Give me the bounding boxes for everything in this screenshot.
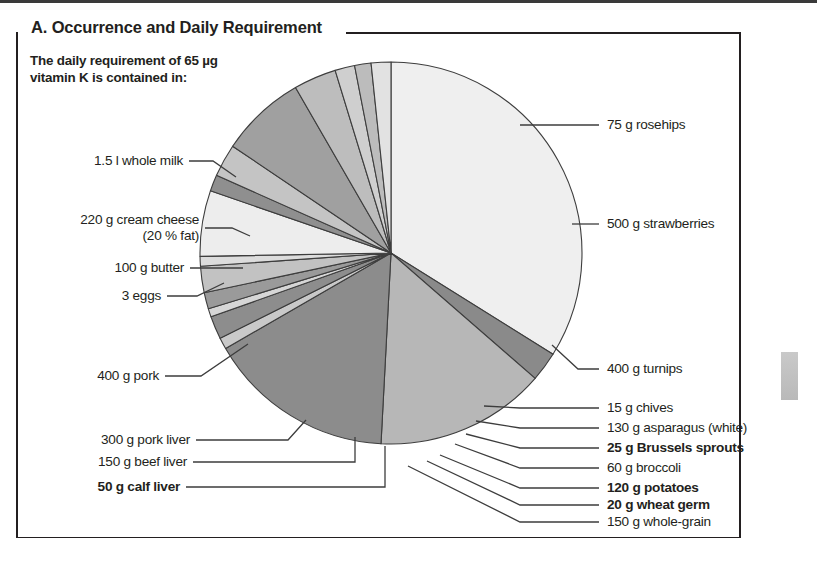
leader-asparagus (476, 421, 599, 428)
leader-pork-liver (196, 420, 306, 440)
label-pork-liver: 300 g pork liver (0, 432, 190, 448)
label-cream-cheese: 220 g cream cheese (20 % fat) (0, 212, 199, 244)
page-edge-thumb-marker (781, 352, 798, 400)
leader-brussels (466, 434, 599, 448)
label-rosehips: 75 g rosehips (607, 117, 685, 133)
label-asparagus: 130 g asparagus (white) (607, 420, 747, 436)
label-cream-cheese-line-1: 220 g cream cheese (80, 212, 199, 227)
label-pork: 400 g pork (0, 368, 159, 384)
label-calf-liver: 50 g calf liver (0, 479, 180, 495)
label-beef-liver: 150 g beef liver (0, 454, 187, 470)
label-butter: 100 g butter (0, 260, 184, 276)
label-potatoes: 120 g potatoes (607, 480, 699, 496)
leader-beef-liver (193, 437, 355, 462)
label-brussels-sprouts: 25 g Brussels sprouts (607, 440, 744, 456)
label-eggs: 3 eggs (0, 288, 161, 304)
label-wheat-germ: 20 g wheat germ (607, 497, 710, 513)
label-chives: 15 g chives (607, 400, 673, 416)
leader-wholegrain (408, 466, 599, 522)
label-whole-grain: 150 g whole-grain (607, 514, 711, 530)
vitamin-k-pie-chart: 1.5 l whole milk75 g rosehips500 g straw… (0, 0, 817, 562)
leader-potatoes (440, 455, 599, 488)
label-broccoli: 60 g broccoli (607, 460, 681, 476)
leader-turnips (552, 345, 599, 369)
label-whole-milk: 1.5 l whole milk (0, 153, 183, 169)
label-turnips: 400 g turnips (607, 361, 682, 377)
figure-panel: A. Occurrence and Daily Requirement The … (0, 0, 817, 562)
label-strawberries: 500 g strawberries (607, 216, 714, 232)
pie-slices: 1.5 l whole milk75 g rosehips500 g straw… (200, 62, 582, 444)
label-cream-cheese-line-2: (20 % fat) (143, 228, 199, 243)
